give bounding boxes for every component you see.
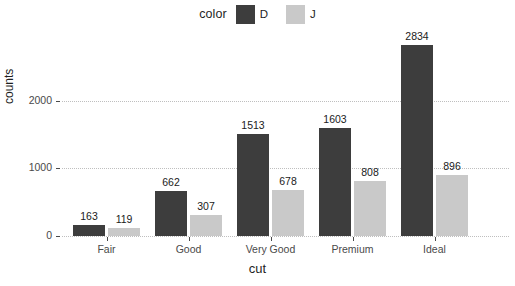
y-tick-label-1000: 1000 [29,162,52,173]
y-tick-mark-2000 [56,101,60,102]
legend-item-d[interactable]: D [236,5,268,24]
x-tick-label-premium: Premium [308,243,398,255]
legend-label-d: D [260,8,268,20]
bar-chart: color D J counts 010002000 1631196623071… [0,0,515,286]
x-tick-label-very-good: Very Good [226,243,316,255]
y-tick-mark-1000 [56,168,60,169]
y-tick-mark-0 [56,236,60,237]
x-tick-label-ideal: Ideal [390,243,480,255]
legend-label-j: J [310,8,316,20]
x-axis-title: cut [0,261,515,276]
legend-swatch-j [286,5,305,24]
x-tick-label-good: Good [144,243,234,255]
bar-j-premium[interactable] [354,181,386,236]
gridline-2000 [62,101,509,102]
bar-value-d-premium: 1603 [313,114,357,125]
x-tick-mark-good [189,237,190,241]
bar-value-j-ideal: 896 [430,161,474,172]
bar-j-very-good[interactable] [272,190,304,236]
plot-area: 163119662307151367816038082834896 [62,30,509,236]
chart-legend: color D J [0,2,515,26]
x-tick-mark-premium [353,237,354,241]
bar-value-j-good: 307 [184,201,228,212]
bar-d-good[interactable] [155,191,187,236]
bar-d-ideal[interactable] [401,45,433,236]
legend-title: color [199,7,227,21]
bar-value-j-very-good: 678 [266,176,310,187]
y-tick-label-2000: 2000 [29,95,52,106]
bar-value-d-good: 662 [149,177,193,188]
bar-d-very-good[interactable] [237,134,269,236]
x-tick-mark-fair [107,237,108,241]
bar-d-premium[interactable] [319,128,351,236]
legend-item-j[interactable]: J [286,5,316,24]
x-tick-mark-very-good [271,237,272,241]
y-axis-title: counts [2,69,16,104]
bar-j-fair[interactable] [108,228,140,236]
x-tick-label-fair: Fair [62,243,152,255]
bar-value-j-fair: 119 [102,214,146,225]
legend-swatch-d [236,5,255,24]
x-tick-mark-ideal [435,237,436,241]
gridline-0 [62,236,509,237]
bar-j-good[interactable] [190,215,222,236]
bar-value-j-premium: 808 [348,167,392,178]
bar-value-d-ideal: 2834 [395,31,439,42]
bar-d-fair[interactable] [73,225,105,236]
y-tick-label-0: 0 [46,230,52,241]
bar-j-ideal[interactable] [436,175,468,236]
bar-value-d-very-good: 1513 [231,120,275,131]
